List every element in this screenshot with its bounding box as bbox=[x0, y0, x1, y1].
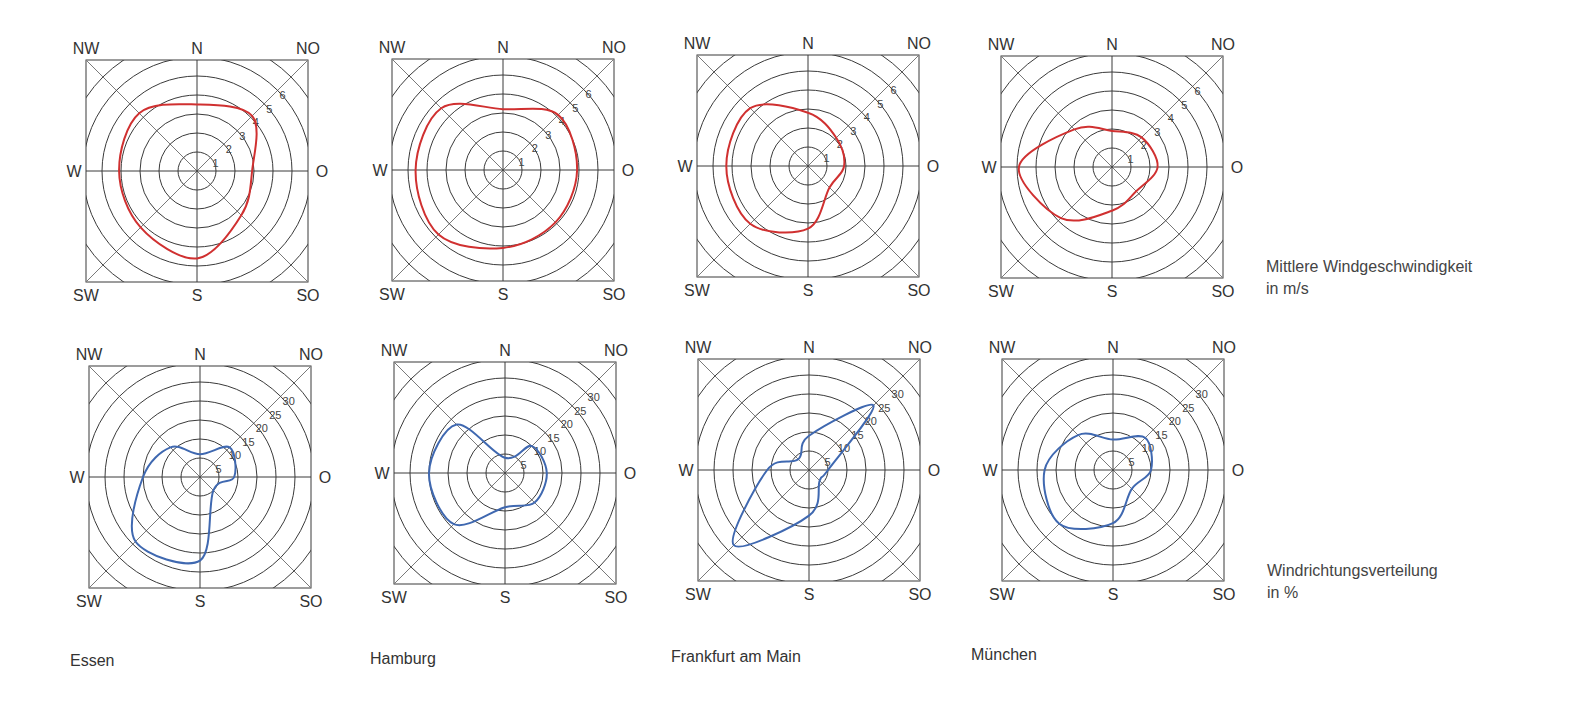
direction-label-s: S bbox=[498, 286, 509, 303]
direction-label-o: O bbox=[927, 158, 939, 175]
tick-label: 5 bbox=[824, 456, 830, 468]
direction-label-w: W bbox=[69, 469, 85, 486]
direction-label-w: W bbox=[374, 465, 390, 482]
direction-label-w: W bbox=[981, 159, 997, 176]
direction-label-no: NO bbox=[299, 346, 323, 363]
direction-label-so: SO bbox=[1211, 283, 1234, 300]
direction-label-sw: SW bbox=[685, 586, 712, 603]
direction-label-nw: NW bbox=[685, 339, 713, 356]
direction-label-s: S bbox=[1107, 283, 1118, 300]
wind-rose-direction-5: 51015202530NNOOSOSSWWNW bbox=[372, 340, 638, 606]
tick-label: 5 bbox=[1128, 456, 1134, 468]
tick-label: 15 bbox=[1155, 429, 1167, 441]
direction-legend-line1: Windrichtungsverteilung bbox=[1267, 560, 1438, 582]
direction-label-n: N bbox=[191, 40, 203, 57]
direction-label-s: S bbox=[195, 593, 206, 610]
wind-rose-speed-3: 123456NNOOSOSSWWNW bbox=[979, 34, 1245, 300]
direction-label-no: NO bbox=[1211, 36, 1235, 53]
speed-legend: Mittlere Windgeschwindigkeit in m/s bbox=[1266, 256, 1472, 300]
tick-label: 25 bbox=[574, 405, 586, 417]
tick-label: 3 bbox=[850, 125, 856, 137]
direction-label-n: N bbox=[803, 339, 815, 356]
tick-label: 30 bbox=[1196, 388, 1208, 400]
speed-legend-line1: Mittlere Windgeschwindigkeit bbox=[1266, 256, 1472, 278]
direction-label-nw: NW bbox=[684, 35, 712, 52]
tick-label: 6 bbox=[586, 88, 592, 100]
city-label-muenchen: München bbox=[971, 646, 1037, 664]
direction-label-nw: NW bbox=[988, 36, 1016, 53]
tick-label: 5 bbox=[266, 103, 272, 115]
direction-label-no: NO bbox=[1212, 339, 1236, 356]
direction-label-no: NO bbox=[907, 35, 931, 52]
tick-label: 20 bbox=[256, 422, 268, 434]
direction-label-sw: SW bbox=[76, 593, 103, 610]
tick-label: 5 bbox=[572, 102, 578, 114]
direction-label-n: N bbox=[194, 346, 206, 363]
tick-label: 3 bbox=[1154, 126, 1160, 138]
direction-label-nw: NW bbox=[76, 346, 104, 363]
tick-label: 1 bbox=[518, 156, 524, 168]
direction-label-nw: NW bbox=[379, 39, 407, 56]
tick-label: 2 bbox=[226, 143, 232, 155]
tick-label: 1 bbox=[1127, 153, 1133, 165]
tick-label: 3 bbox=[239, 130, 245, 142]
direction-label-nw: NW bbox=[73, 40, 101, 57]
direction-label-so: SO bbox=[907, 282, 930, 299]
speed-legend-line2: in m/s bbox=[1266, 278, 1472, 300]
direction-legend-line2: in % bbox=[1267, 582, 1438, 604]
direction-label-so: SO bbox=[604, 589, 627, 606]
direction-label-o: O bbox=[624, 465, 636, 482]
direction-label-w: W bbox=[677, 158, 693, 175]
wind-rose-speed-0: 123456NNOOSOSSWWNW bbox=[64, 38, 330, 304]
direction-label-n: N bbox=[1107, 339, 1119, 356]
direction-label-nw: NW bbox=[989, 339, 1017, 356]
direction-label-no: NO bbox=[296, 40, 320, 57]
tick-label: 4 bbox=[1168, 112, 1174, 124]
direction-legend: Windrichtungsverteilung in % bbox=[1267, 560, 1438, 604]
wind-rose-direction-4: 51015202530NNOOSOSSWWNW bbox=[67, 344, 333, 610]
direction-label-w: W bbox=[982, 462, 998, 479]
direction-label-w: W bbox=[66, 163, 82, 180]
wind-rose-direction-6: 51015202530NNOOSOSSWWNW bbox=[676, 337, 942, 603]
direction-label-o: O bbox=[319, 469, 331, 486]
tick-label: 3 bbox=[545, 129, 551, 141]
direction-label-s: S bbox=[803, 282, 814, 299]
direction-label-o: O bbox=[622, 162, 634, 179]
speed-curve bbox=[1019, 127, 1158, 221]
direction-label-o: O bbox=[1231, 159, 1243, 176]
direction-label-n: N bbox=[1106, 36, 1118, 53]
wind-rose-figure: 123456NNOOSOSSWWNW123456NNOOSOSSWWNW1234… bbox=[0, 0, 1592, 720]
city-label-essen: Essen bbox=[70, 652, 114, 670]
direction-label-sw: SW bbox=[381, 589, 408, 606]
direction-label-no: NO bbox=[604, 342, 628, 359]
tick-label: 20 bbox=[1169, 415, 1181, 427]
direction-label-w: W bbox=[372, 162, 388, 179]
tick-label: 1 bbox=[212, 157, 218, 169]
direction-label-s: S bbox=[1108, 586, 1119, 603]
tick-label: 2 bbox=[532, 142, 538, 154]
tick-label: 5 bbox=[1181, 99, 1187, 111]
direction-label-o: O bbox=[928, 462, 940, 479]
tick-label: 6 bbox=[891, 84, 897, 96]
direction-label-sw: SW bbox=[988, 283, 1015, 300]
wind-rose-speed-2: 123456NNOOSOSSWWNW bbox=[675, 33, 941, 299]
tick-label: 25 bbox=[269, 409, 281, 421]
direction-label-n: N bbox=[802, 35, 814, 52]
tick-label: 4 bbox=[864, 111, 870, 123]
direction-label-so: SO bbox=[1212, 586, 1235, 603]
direction-label-o: O bbox=[1232, 462, 1244, 479]
tick-label: 15 bbox=[242, 436, 254, 448]
speed-curve bbox=[119, 104, 257, 258]
direction-label-sw: SW bbox=[379, 286, 406, 303]
tick-label: 30 bbox=[892, 388, 904, 400]
tick-label: 6 bbox=[1195, 85, 1201, 97]
tick-label: 5 bbox=[877, 98, 883, 110]
wind-rose-direction-7: 51015202530NNOOSOSSWWNW bbox=[980, 337, 1246, 603]
direction-label-sw: SW bbox=[684, 282, 711, 299]
direction-label-s: S bbox=[192, 287, 203, 304]
direction-label-n: N bbox=[497, 39, 509, 56]
tick-label: 25 bbox=[1182, 402, 1194, 414]
direction-label-so: SO bbox=[602, 286, 625, 303]
direction-label-nw: NW bbox=[381, 342, 409, 359]
direction-label-no: NO bbox=[602, 39, 626, 56]
